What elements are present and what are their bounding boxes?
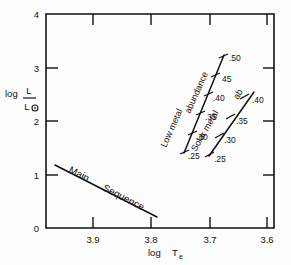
y-axis-tick-label-2: 2 (34, 116, 39, 127)
y-axis-tick-label-0: 0 (34, 223, 39, 234)
x-axis-tick-label-37: 3.7 (203, 234, 216, 245)
sm-value-30: .30 (224, 135, 236, 145)
x-axis-tick-label-38: 3.8 (144, 234, 157, 245)
y-axis-title-denominator: L (24, 101, 29, 112)
main-sequence-label-1: Main (67, 164, 91, 184)
y-axis-tick-label-1: 1 (34, 170, 39, 181)
sm-value-35: .35 (236, 116, 248, 126)
y-axis-tick-label-3: 3 (34, 63, 39, 74)
x-axis-tick-label-39: 3.9 (86, 234, 99, 245)
sm-value-25: .25 (214, 154, 226, 164)
y-axis-tick-label-4: 4 (34, 9, 39, 20)
main-sequence-label-2: Sequence (101, 182, 147, 212)
sm-value-40: .40 (252, 95, 264, 105)
low-metal-label-1: Low metal (159, 107, 185, 149)
x-axis-title-log: log (148, 247, 161, 258)
sm-tick-35 (226, 114, 235, 119)
figure-container: 4 3 2 1 0 3.9 3.8 3.7 3.6 log L L log T … (0, 0, 291, 265)
hr-diagram-plot: 4 3 2 1 0 3.9 3.8 3.7 3.6 log L L log T … (0, 0, 291, 265)
lm-value-45: 45 (222, 74, 232, 84)
solar-metal-label-2: ab (231, 87, 245, 101)
lm-value-25: .25 (188, 151, 200, 161)
sun-symbol-icon (32, 105, 38, 111)
x-axis-title: log T e (148, 247, 183, 260)
y-axis-title-log: log (5, 88, 18, 99)
x-axis-title-subscript: e (179, 253, 183, 260)
y-axis-title: log L L (5, 85, 38, 112)
low-metal-label-2: abundance (183, 70, 210, 115)
x-axis-tick-label-36: 3.6 (260, 234, 273, 245)
x-axis-title-symbol: T (172, 247, 178, 258)
lm-value-40: .40 (213, 93, 225, 103)
lm-value-50: .50 (229, 53, 241, 63)
y-axis-title-numerator: L (26, 85, 31, 96)
